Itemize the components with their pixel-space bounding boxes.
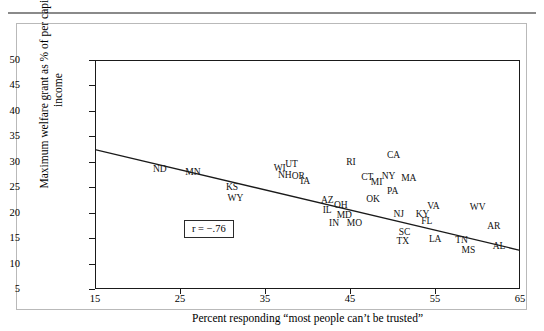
x-tick-mark <box>350 289 351 294</box>
data-point-label: KS <box>226 183 238 193</box>
correlation-annotation-box: r = −.76 <box>184 220 234 238</box>
y-tick-mark <box>89 289 95 290</box>
x-tick-mark <box>435 289 436 294</box>
x-axis-label: Percent responding “most people can’t be… <box>95 312 520 325</box>
x-tick-label: 45 <box>345 294 356 305</box>
data-point-label: IN <box>329 219 339 229</box>
y-tick-label: 25 <box>0 182 20 193</box>
data-point-label: RI <box>346 158 355 168</box>
data-point-label: WV <box>470 203 486 213</box>
data-point-label: MA <box>401 174 416 184</box>
data-point-label: TX <box>397 237 409 247</box>
correlation-value: r = −.76 <box>192 223 226 234</box>
data-point-label: IA <box>300 177 310 187</box>
data-point-label: PA <box>387 188 398 198</box>
data-point-label: LA <box>429 235 441 245</box>
data-point-label: AL <box>493 243 505 253</box>
figure-container: Maximum welfare grant as % of per capita… <box>16 23 527 310</box>
y-tick-label: 40 <box>0 106 20 117</box>
data-point-label: NH <box>278 171 292 181</box>
data-point-label: VA <box>427 202 439 212</box>
y-tick-label: 10 <box>0 258 20 269</box>
data-point-label: ND <box>153 165 167 175</box>
y-tick-label: 20 <box>0 207 20 218</box>
y-tick-label: 30 <box>0 157 20 168</box>
data-point-label: FL <box>421 217 432 227</box>
y-tick-label: 5 <box>0 284 20 295</box>
y-tick-label: 45 <box>0 80 20 91</box>
data-point-label: IL <box>323 206 332 216</box>
plot-area: NDMNKSWYWIUTNHORIARICACTNYMAMIPAAZOKILOH… <box>95 60 520 289</box>
y-tick-label: 35 <box>0 131 20 142</box>
data-point-label: MS <box>462 246 476 256</box>
x-tick-label: 35 <box>260 294 271 305</box>
data-point-label: UT <box>285 160 297 170</box>
data-point-label: NY <box>382 172 396 182</box>
data-point-label: MI <box>371 178 382 188</box>
data-point-label: WY <box>228 195 244 205</box>
x-tick-label: 65 <box>515 294 526 305</box>
y-tick-label: 15 <box>0 233 20 244</box>
data-point-label: AR <box>487 223 500 233</box>
data-point-label: NJ <box>393 210 403 220</box>
y-axis-label: Maximum welfare grant as % of per capita… <box>37 0 65 190</box>
data-point-label: OK <box>366 196 380 206</box>
x-tick-mark <box>180 289 181 294</box>
x-tick-mark <box>265 289 266 294</box>
top-divider-rule <box>8 12 536 14</box>
data-point-label: MO <box>347 219 362 229</box>
y-tick-label: 50 <box>0 55 20 66</box>
x-tick-label: 15 <box>90 294 101 305</box>
data-point-label: MN <box>185 168 200 178</box>
data-point-label: CA <box>387 151 400 161</box>
x-tick-label: 55 <box>430 294 441 305</box>
x-tick-label: 25 <box>175 294 186 305</box>
